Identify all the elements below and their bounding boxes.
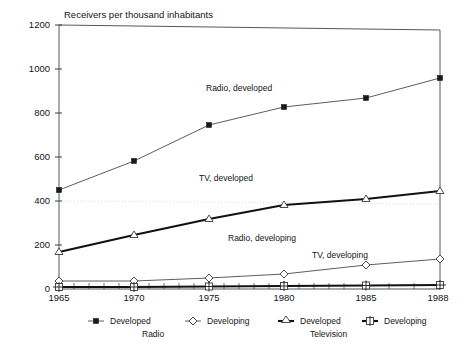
data-point-marker [207,123,212,128]
y-axis-labels: 0 200 400 600 800 1000 1200 [29,19,50,294]
y-label-1000: 1000 [29,63,50,74]
series-tv-developed [55,187,444,255]
annotation-tv-developed: TV, developed [199,173,253,183]
hollow-diamond-icon [189,317,197,325]
annotation-radio-developing: Radio, developing [228,233,296,243]
data-point-marker [53,282,65,292]
legend-label-radio-developed: Developed [110,316,151,326]
data-point-marker [128,282,140,292]
x-label-1980: 1980 [273,292,294,303]
data-point-marker [57,188,62,193]
legend-item-tv-developed[interactable]: Developed [278,316,341,326]
data-point-marker [282,105,287,110]
data-point-marker [280,270,288,278]
series-line-tv-developing [59,285,440,287]
series-tv-developing [53,280,446,292]
x-label-1975: 1975 [198,292,219,303]
legend-item-radio-developed[interactable]: Developed [88,316,151,326]
series-radio-developing [55,255,444,285]
plot-frame [59,25,440,289]
plot-border [59,25,440,289]
legend-label-tv-developed: Developed [300,316,341,326]
x-label-1988: 1988 [427,292,448,303]
chart-title: Receivers per thousand inhabitants [64,9,213,20]
y-label-400: 400 [34,195,50,206]
x-label-1965: 1965 [48,292,69,303]
line-chart: 0 200 400 600 800 1000 1200 [0,0,469,353]
filled-square-icon [94,319,99,324]
chart-legend: Developed Developing Radio Developed [88,316,427,339]
y-label-600: 600 [34,151,50,162]
x-axis-labels: 1965 1970 1975 1980 1985 1988 [48,292,448,303]
legend-group-radio: Radio [142,329,164,339]
series-line-radio-developing [59,259,440,281]
y-label-1200: 1200 [29,19,50,30]
annotation-tv-developing: TV, developing [312,250,368,260]
gridlines [59,201,440,204]
data-point-marker [438,76,443,81]
x-label-1970: 1970 [123,292,144,303]
x-label-1985: 1985 [355,292,376,303]
data-point-marker [203,282,215,292]
legend-label-radio-developing: Developing [207,316,250,326]
gridline-400 [59,201,440,204]
annotation-radio-developed: Radio, developed [206,83,272,93]
legend-group-television: Television [310,329,348,339]
hollow-triangle-icon [282,316,291,323]
data-point-marker [362,261,370,269]
cross-square-icon [367,316,374,326]
y-label-200: 200 [34,239,50,250]
data-point-marker [205,274,213,282]
legend-item-radio-developing[interactable]: Developing [185,316,250,326]
data-point-marker [132,159,137,164]
legend-label-tv-developing: Developing [384,316,427,326]
legend-item-tv-developing[interactable]: Developing [362,316,427,326]
chart-container: 0 200 400 600 800 1000 1200 [0,0,469,353]
data-point-marker [364,96,369,101]
y-label-800: 800 [34,107,50,118]
data-point-marker [436,255,444,263]
